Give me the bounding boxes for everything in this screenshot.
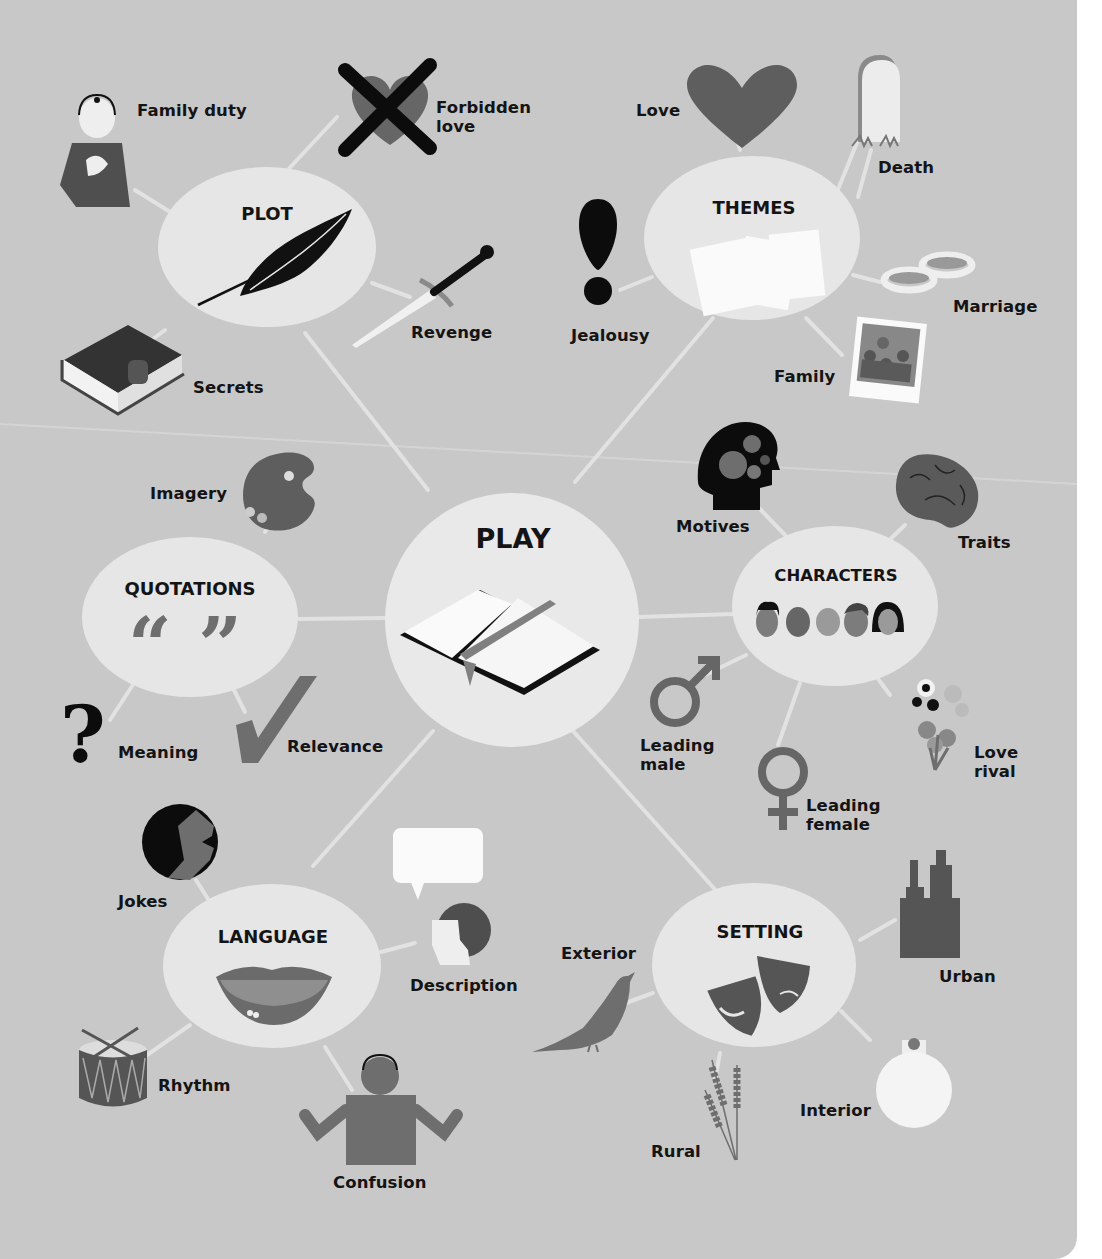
label-revenge: Revenge [411, 323, 492, 342]
flower-bouquet-icon [912, 679, 969, 770]
label-death: Death [878, 158, 934, 177]
svg-text:?: ? [60, 689, 106, 780]
shrugging-person-icon [305, 1055, 457, 1165]
hub-themes-title: THEMES [713, 197, 796, 218]
label-interior: Interior [800, 1101, 871, 1120]
wheat-icon [705, 1060, 737, 1160]
light-bulb-icon [876, 1038, 952, 1128]
label-traits: Traits [958, 533, 1011, 552]
gravestone-icon [852, 55, 900, 146]
connector-play-quotations [298, 618, 386, 619]
hub-setting-title: SETTING [717, 921, 804, 942]
laughing-face-icon [142, 804, 218, 880]
quotation-marks-icon: “ ” [128, 601, 242, 690]
label-jokes: Jokes [118, 892, 168, 911]
mind-map-panel: “ ” [0, 0, 1077, 1259]
label-urban: Urban [939, 967, 996, 986]
mind-map-diagram: “ ” [0, 0, 1077, 1259]
locked-book-icon [62, 325, 184, 414]
label-imagery: Imagery [150, 484, 227, 503]
label-family-duty: Family duty [137, 101, 247, 120]
question-mark-icon: ? [60, 689, 106, 780]
label-relevance: Relevance [287, 737, 383, 756]
bird-icon [532, 972, 635, 1052]
male-symbol-icon [654, 660, 716, 723]
crossed-out-heart-icon [345, 65, 430, 150]
label-confusion: Confusion [333, 1173, 427, 1192]
family-photo-icon [849, 317, 927, 404]
skyscrapers-icon [900, 850, 960, 958]
label-marriage: Marriage [953, 297, 1037, 316]
female-symbol-icon [762, 751, 804, 830]
label-secrets: Secrets [193, 378, 264, 397]
label-leading-male: Leading male [640, 736, 715, 774]
hub-language-title: LANGUAGE [218, 926, 328, 947]
person-hand-on-heart-icon [60, 95, 130, 207]
connector-play-plot [305, 333, 428, 490]
connector-play-characters [638, 614, 735, 617]
label-exterior: Exterior [561, 944, 636, 963]
label-leading-female: Leading female [806, 796, 881, 834]
hub-characters-title: CHARACTERS [774, 566, 897, 585]
drum-icon [79, 1028, 147, 1107]
head-gears-icon [698, 422, 780, 510]
label-family: Family [774, 367, 835, 386]
label-motives: Motives [676, 517, 750, 536]
label-description: Description [410, 976, 518, 995]
label-love: Love [636, 101, 680, 120]
label-meaning: Meaning [118, 743, 198, 762]
label-jealousy: Jealousy [571, 326, 650, 345]
label-rural: Rural [651, 1142, 701, 1161]
hub-quotations-title: QUOTATIONS [125, 578, 256, 599]
exclamation-icon [579, 199, 617, 305]
paint-palette-icon [243, 453, 315, 531]
label-forbidden-love: Forbidden love [436, 98, 531, 136]
label-rhythm: Rhythm [158, 1076, 231, 1095]
hub-plot-node [158, 167, 376, 327]
label-love-rival: Love rival [974, 743, 1018, 781]
heart-icon [687, 65, 797, 148]
connector-plot-family-duty [135, 190, 175, 215]
hub-plot-title: PLOT [241, 203, 293, 224]
svg-text:“ ”: “ ” [128, 601, 242, 690]
wedding-rings-icon [884, 255, 972, 290]
center-play-title: PLAY [476, 523, 551, 554]
brain-icon [896, 454, 978, 528]
